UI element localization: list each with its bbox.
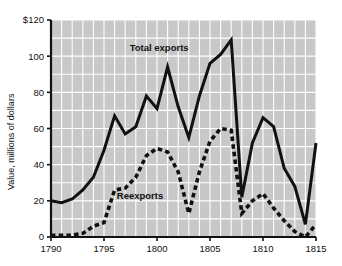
- x-tick-label: 1800: [146, 243, 167, 254]
- y-tick-label: 100: [28, 51, 44, 62]
- x-tick-label: 1795: [93, 243, 114, 254]
- exports-line-chart: 020406080100$120 17901795180018051810181…: [0, 0, 342, 266]
- x-tick-label: 1805: [199, 243, 220, 254]
- series-label-total-exports: Total exports: [130, 42, 189, 53]
- x-tick-label: 1815: [305, 243, 326, 254]
- x-tick-label: 1790: [40, 243, 61, 254]
- chart-figure: 020406080100$120 17901795180018051810181…: [0, 0, 342, 266]
- y-tick-label: 40: [33, 159, 44, 170]
- y-tick-label: 80: [33, 87, 44, 98]
- series-label-reexports: Reexports: [117, 190, 163, 201]
- y-tick-label: $120: [23, 14, 44, 25]
- y-tick-label: 20: [33, 195, 44, 206]
- y-tick-label: 0: [39, 231, 44, 242]
- y-axis-label: Value, millions of dollars: [6, 93, 16, 190]
- y-tick-label: 60: [33, 123, 44, 134]
- x-tick-label: 1810: [252, 243, 273, 254]
